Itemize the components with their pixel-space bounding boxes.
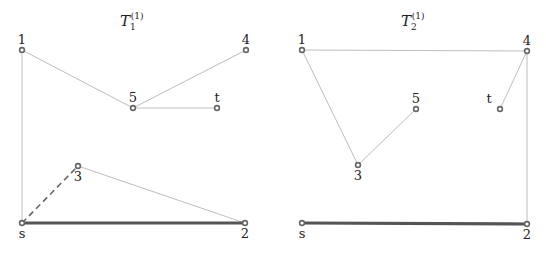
edge-1-4 bbox=[302, 50, 527, 51]
diagram-canvas: T1(1) 145t3s2 T2(1) 145t3s2 bbox=[0, 0, 546, 255]
node-label-1: 1 bbox=[298, 32, 306, 47]
node-s bbox=[300, 221, 305, 226]
edge-1-3 bbox=[302, 50, 358, 165]
edge-1-5 bbox=[22, 50, 133, 108]
node-3 bbox=[356, 163, 361, 168]
node-label-1: 1 bbox=[18, 32, 26, 47]
graph-t2-title: T2(1) bbox=[401, 11, 425, 32]
node-4 bbox=[525, 49, 530, 54]
node-1 bbox=[20, 48, 25, 53]
node-5 bbox=[131, 106, 136, 111]
node-label-5: 5 bbox=[412, 91, 420, 106]
node-label-2: 2 bbox=[523, 227, 531, 242]
node-label-3: 3 bbox=[354, 168, 362, 183]
edge-3-5 bbox=[358, 109, 416, 165]
node-label-s: s bbox=[299, 226, 306, 241]
graph-t1-nodes: 145t3s2 bbox=[18, 32, 250, 241]
node-2 bbox=[525, 222, 530, 227]
node-label-4: 4 bbox=[523, 33, 531, 48]
node-s bbox=[20, 221, 25, 226]
edge-3-2 bbox=[78, 166, 245, 223]
node-4 bbox=[244, 48, 249, 53]
edge-5-4 bbox=[133, 50, 246, 108]
edge-s-2 bbox=[302, 223, 527, 224]
node-t bbox=[498, 107, 503, 112]
node-5 bbox=[414, 107, 419, 112]
node-3 bbox=[76, 164, 81, 169]
graph-t2: T2(1) 145t3s2 bbox=[298, 11, 531, 242]
node-label-3: 3 bbox=[74, 169, 82, 184]
node-label-t: t bbox=[214, 90, 220, 105]
node-2 bbox=[243, 221, 248, 226]
graph-t1-title: T1(1) bbox=[120, 11, 144, 32]
node-label-2: 2 bbox=[241, 226, 249, 241]
edge-s-3 bbox=[22, 166, 78, 223]
node-1 bbox=[300, 48, 305, 53]
graph-t2-nodes: 145t3s2 bbox=[298, 32, 531, 242]
node-label-s: s bbox=[19, 226, 26, 241]
node-label-4: 4 bbox=[242, 32, 250, 47]
graph-t2-edges bbox=[302, 50, 527, 224]
node-label-t: t bbox=[486, 91, 492, 106]
graph-t1: T1(1) 145t3s2 bbox=[18, 11, 250, 241]
edge-4-t bbox=[500, 51, 527, 109]
node-t bbox=[215, 106, 220, 111]
graph-t1-edges bbox=[22, 50, 246, 223]
node-label-5: 5 bbox=[129, 90, 137, 105]
